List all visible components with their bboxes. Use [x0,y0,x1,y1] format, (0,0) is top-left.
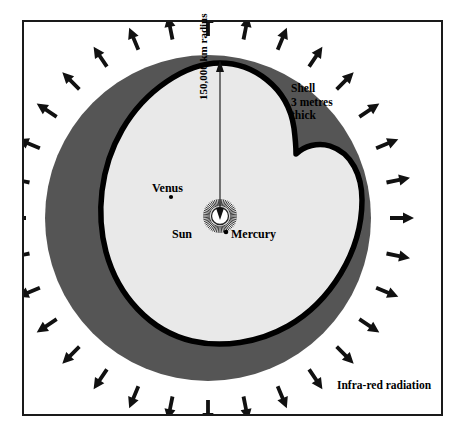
label-venus: Venus [152,181,183,195]
infrared-arrow [165,16,176,40]
infrared-arrow [375,138,398,150]
infrared-arrow [335,345,353,363]
infrared-arrow [390,212,414,223]
infrared-arrow [165,396,176,420]
infrared-arrow [358,318,379,333]
infrared-arrow [276,385,288,408]
infrared-arrow [335,72,353,90]
infrared-arrow [128,385,140,408]
infrared-arrow [94,47,109,68]
label-mercury: Mercury [231,227,276,241]
infrared-arrow [62,345,80,363]
infrared-arrow [18,286,41,298]
infrared-arrow [37,104,58,119]
label-infrared-radiation: Infra-red radiation [337,379,431,393]
label-sun: Sun [172,227,192,241]
infrared-arrow [308,47,323,68]
infrared-arrow [37,318,58,333]
mercury-body [224,230,229,235]
infrared-arrow [128,28,140,51]
infrared-arrow [241,396,252,420]
infrared-arrow [6,175,30,186]
infrared-arrow [375,286,398,298]
diagram-canvas: Shell 3 metres thick Infra-red radiation… [0,0,459,437]
infrared-arrow [358,104,379,119]
infrared-arrow [308,368,323,389]
infrared-arrow [202,400,213,424]
infrared-arrow [386,251,410,262]
infrared-arrow [2,212,26,223]
infrared-arrow [18,138,41,150]
infrared-arrow [386,175,410,186]
venus-body [169,195,173,199]
infrared-arrow [276,28,288,51]
infrared-arrow [6,251,30,262]
infrared-arrow [62,72,80,90]
infrared-arrow [241,16,252,40]
label-shell: Shell 3 metres thick [291,82,333,123]
dyson-sphere-illustration [0,0,459,437]
infrared-arrow [94,368,109,389]
label-radius: 150,000 km radius [197,0,210,100]
